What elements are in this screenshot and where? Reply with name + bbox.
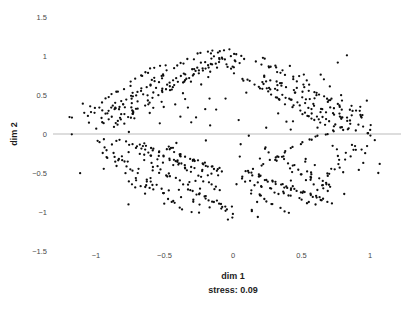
data-point [248, 135, 250, 137]
data-point [238, 119, 240, 121]
data-point [201, 67, 203, 69]
data-point [186, 58, 188, 60]
data-point [192, 199, 194, 201]
data-point [112, 152, 114, 154]
data-point [296, 80, 298, 82]
data-point [310, 117, 312, 119]
data-point [139, 185, 141, 187]
data-point [231, 205, 233, 207]
data-point [193, 73, 195, 75]
data-point [101, 101, 103, 103]
data-point [198, 203, 200, 205]
data-point [323, 95, 325, 97]
data-point [121, 159, 123, 161]
data-point [333, 125, 335, 127]
data-point [358, 169, 360, 171]
data-point [260, 186, 262, 188]
data-point [135, 179, 137, 181]
data-point [354, 145, 356, 147]
data-point [173, 202, 175, 204]
data-point [289, 167, 291, 169]
data-point [276, 89, 278, 91]
data-point [345, 152, 347, 154]
data-point [301, 96, 303, 98]
data-point [266, 87, 268, 89]
data-point [336, 148, 338, 150]
data-point [175, 177, 177, 179]
data-point [314, 164, 316, 166]
x-tick-label: 0.5 [296, 251, 306, 260]
data-point [334, 168, 336, 170]
data-point [195, 193, 197, 195]
data-point [295, 190, 297, 192]
data-point [118, 108, 120, 110]
data-point [325, 118, 327, 120]
data-point [198, 69, 200, 71]
data-point [316, 135, 318, 137]
data-point [143, 159, 145, 161]
data-point [114, 160, 116, 162]
data-point [257, 216, 259, 218]
y-tick-label: 0.5 [37, 91, 47, 100]
data-point [123, 123, 125, 125]
data-point [308, 84, 310, 86]
data-point [238, 62, 240, 64]
data-point [216, 67, 218, 69]
data-point [319, 111, 321, 113]
data-point [101, 109, 103, 111]
data-point [310, 108, 312, 110]
data-point [269, 159, 271, 161]
data-point [253, 83, 255, 85]
data-point [127, 203, 129, 205]
data-point [182, 183, 184, 185]
data-point [322, 198, 324, 200]
data-point [213, 201, 215, 203]
data-point [153, 67, 155, 69]
data-point [180, 196, 182, 198]
data-point [158, 172, 160, 174]
data-point [292, 78, 294, 80]
data-point [173, 67, 175, 69]
data-point [132, 110, 134, 112]
data-point [281, 82, 283, 84]
data-point [278, 98, 280, 100]
data-point [188, 77, 190, 79]
data-point [204, 161, 206, 163]
data-point [265, 80, 267, 82]
data-point [169, 175, 171, 177]
data-point [298, 197, 300, 199]
data-point [346, 116, 348, 118]
data-point [204, 108, 206, 110]
data-point [200, 176, 202, 178]
data-point [325, 111, 327, 113]
data-point [291, 171, 293, 173]
data-point [224, 58, 226, 60]
data-point [318, 177, 320, 179]
data-point [321, 116, 323, 118]
data-point [129, 85, 131, 87]
data-point [156, 158, 158, 160]
data-point [279, 207, 281, 209]
data-point [207, 174, 209, 176]
data-point [68, 116, 70, 118]
data-point [175, 142, 177, 144]
data-point [271, 203, 273, 205]
data-point [333, 130, 335, 132]
data-point [318, 196, 320, 198]
data-point [362, 125, 364, 127]
data-point [284, 103, 286, 105]
data-point [374, 139, 376, 141]
data-point [104, 97, 106, 99]
data-point [201, 170, 203, 172]
data-point [88, 122, 90, 124]
data-point [293, 164, 295, 166]
data-point [310, 173, 312, 175]
data-point [275, 183, 277, 185]
data-point [313, 105, 315, 107]
data-point [346, 120, 348, 122]
data-point [113, 156, 115, 158]
data-point [207, 51, 209, 53]
data-point [277, 193, 279, 195]
data-point [362, 162, 364, 164]
data-point [179, 155, 181, 157]
